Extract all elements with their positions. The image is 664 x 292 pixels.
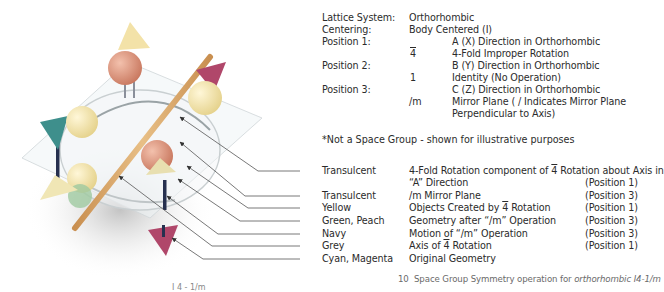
legend-color-name: Green, Peach [322,215,385,227]
legend-description: Original Geometry [409,253,496,265]
def-value: Body Centered (I) [409,24,492,36]
legend-color-name: Transulcent [322,190,376,202]
legend-description: Motion of “/m” Operation [409,228,528,240]
def-value: Identity (No Operation) [452,72,561,84]
def-value: Perpendicular to Axis) [452,108,555,120]
legend-position: (Position 1) [585,240,638,252]
navy-stick [163,180,167,210]
figure-caption: 10 Space Group Symmetry operation for or… [398,274,661,284]
cut-off-text: I 4 - 1/m [172,283,206,292]
navy-stick [162,225,165,237]
legend-description: 4-Fold Rotation component of 4 Rotation … [409,165,664,177]
legend-position: (Position 3) [585,215,638,227]
legend-color-name: Grey [322,240,344,252]
def-label: Centering: [322,24,371,36]
legend-description: Axis of 4 Rotation [409,240,492,252]
def-value: C (Z) Direction in Orthorhombic [452,84,600,96]
def-value: Mirror Plane ( / Indicates Mirror Plane [452,96,626,108]
legend-position: (Position 3) [585,190,638,202]
yellow-cone [118,22,150,50]
def-label: Position 3: [322,84,371,96]
yellow-sphere [188,81,222,115]
def-label: Position 2: [322,60,371,72]
legend-description: “A” Direction [409,177,468,189]
def-label: Lattice System: [322,12,395,24]
def-value: A (X) Direction in Orthorhombic [452,36,600,48]
legend-description: Objects Created by 4 Rotation [409,202,551,214]
def-value: Orthorhombic [409,12,474,24]
legend-color-name: Transulcent [322,165,376,177]
legend-description: /m Mirror Plane [409,190,481,202]
legend-description: Geometry after “/m” Operation [409,215,556,227]
def-value: B (Y) Direction in Orthorhombic [452,60,599,72]
legend-position: (Position 1) [585,202,638,214]
peach-sphere [108,51,142,85]
symmetry-illustration [0,0,300,288]
def-symbol: 4 [410,48,416,60]
legend-position: (Position 1) [585,177,638,189]
footnote: *Not a Space Group - shown for illustrat… [322,134,575,146]
legend-position: (Position 3) [585,228,638,240]
legend-color-name: Yellow [322,202,351,214]
yellow-sphere [66,106,98,138]
def-symbol: 1 [410,72,416,84]
def-value: 4-Fold Improper Rotation [452,48,569,60]
def-label: Position 1: [322,36,371,48]
legend-color-name: Cyan, Magenta [322,253,393,265]
def-symbol: /m [409,96,421,108]
legend-color-name: Navy [322,228,346,240]
